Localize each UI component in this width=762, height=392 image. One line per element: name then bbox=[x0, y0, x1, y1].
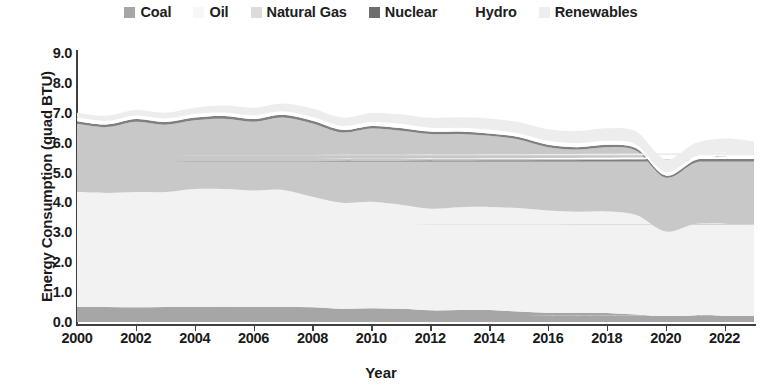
y-axis-tick-label: 6.0 bbox=[26, 135, 72, 151]
x-axis-tick-labels: 2000200220042006200820102012201420162018… bbox=[0, 330, 762, 354]
legend-swatch-renewables-icon bbox=[539, 7, 550, 18]
x-axis-tick-label: 2008 bbox=[297, 330, 328, 346]
x-axis-tick-label: 2012 bbox=[415, 330, 446, 346]
y-axis-tick-label: 9.0 bbox=[26, 45, 72, 61]
legend-item-nuclear[interactable]: Nuclear bbox=[369, 4, 438, 20]
x-axis-tick-label: 2018 bbox=[591, 330, 622, 346]
x-axis-tick-label: 2004 bbox=[179, 330, 210, 346]
stacked-area-svg bbox=[77, 53, 754, 322]
x-axis-tick-label: 2022 bbox=[709, 330, 740, 346]
x-axis-title: Year bbox=[0, 364, 762, 381]
legend-swatch-coal-icon bbox=[124, 7, 135, 18]
legend-swatch-hydro-icon bbox=[459, 7, 470, 18]
legend-item-label: Nuclear bbox=[385, 4, 438, 20]
legend-item-label: Hydro bbox=[475, 4, 516, 20]
legend-swatch-natural-gas-icon bbox=[251, 7, 262, 18]
x-axis-tick-label: 2014 bbox=[474, 330, 505, 346]
x-axis-tick-label: 2002 bbox=[120, 330, 151, 346]
x-axis-tick-label: 2010 bbox=[356, 330, 387, 346]
y-axis-tick-label: 4.0 bbox=[26, 194, 72, 210]
legend-item-label: Renewables bbox=[555, 4, 638, 20]
plot-area bbox=[77, 53, 754, 322]
legend-item-label: Natural Gas bbox=[267, 4, 347, 20]
x-axis-tick-label: 2006 bbox=[238, 330, 269, 346]
legend-item-hydro[interactable]: Hydro bbox=[459, 4, 516, 20]
energy-consumption-stacked-area-chart: CoalOilNatural GasNuclearHydroRenewables… bbox=[0, 0, 762, 392]
legend-item-natural-gas[interactable]: Natural Gas bbox=[251, 4, 347, 20]
y-axis-tick-label: 2.0 bbox=[26, 254, 72, 270]
legend-item-oil[interactable]: Oil bbox=[193, 4, 228, 20]
y-axis-tick-label: 5.0 bbox=[26, 165, 72, 181]
y-axis-tick-label: 3.0 bbox=[26, 224, 72, 240]
y-axis-tick-label: 1.0 bbox=[26, 284, 72, 300]
legend-swatch-nuclear-icon bbox=[369, 7, 380, 18]
legend-item-label: Coal bbox=[140, 4, 171, 20]
x-axis-tick-label: 2016 bbox=[532, 330, 563, 346]
x-axis-tick-label: 2020 bbox=[650, 330, 681, 346]
legend-item-renewables[interactable]: Renewables bbox=[539, 4, 638, 20]
legend-swatch-oil-icon bbox=[193, 7, 204, 18]
y-axis-tick-label: 8.0 bbox=[26, 75, 72, 91]
x-axis-tick-label: 2000 bbox=[61, 330, 92, 346]
legend-item-label: Oil bbox=[209, 4, 228, 20]
legend-item-coal[interactable]: Coal bbox=[124, 4, 171, 20]
y-axis-tick-label: 7.0 bbox=[26, 105, 72, 121]
chart-legend: CoalOilNatural GasNuclearHydroRenewables bbox=[0, 4, 762, 20]
